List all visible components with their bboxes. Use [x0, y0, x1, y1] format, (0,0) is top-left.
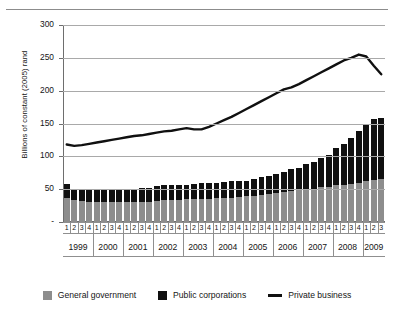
y-axis-tick-label: 50 — [28, 184, 54, 192]
x-axis-quarter-label: 4 — [145, 222, 152, 233]
x-axis-quarter-label: 4 — [325, 222, 332, 233]
x-axis-year-label: 2000 — [93, 242, 123, 252]
x-axis-quarter-label: 2 — [160, 222, 167, 233]
year-separator — [153, 222, 154, 256]
x-axis-band-mid-rule — [63, 233, 385, 234]
y-axis-tick-label: 200 — [28, 86, 54, 94]
quarter-separator — [100, 222, 101, 233]
x-axis-quarter-label: 4 — [175, 222, 182, 233]
y-axis-tick — [59, 156, 63, 157]
quarter-separator — [265, 222, 266, 233]
y-axis-tick — [59, 91, 63, 92]
x-axis-quarter-label: 3 — [378, 222, 385, 233]
year-separator — [123, 222, 124, 256]
gridline — [63, 124, 385, 125]
x-axis-band-bottom-rule — [63, 256, 385, 257]
x-axis-year-label: 2001 — [123, 242, 153, 252]
x-axis-quarter-label: 4 — [295, 222, 302, 233]
y-axis-tick-label: 300 — [28, 20, 54, 28]
x-axis-quarter-label: 1 — [153, 222, 160, 233]
x-axis-quarter-label: 1 — [63, 222, 70, 233]
y-axis-tick — [59, 124, 63, 125]
x-axis-quarter-label: 1 — [333, 222, 340, 233]
quarter-separator — [198, 222, 199, 233]
x-axis-quarter-label: 3 — [288, 222, 295, 233]
x-axis-labels: 1234199912342000123420011234200212342003… — [63, 222, 385, 267]
line-path-private-business — [67, 55, 382, 146]
gridline — [63, 58, 385, 59]
year-separator — [243, 222, 244, 256]
quarter-separator — [235, 222, 236, 233]
quarter-separator — [310, 222, 311, 233]
quarter-separator — [205, 222, 206, 233]
y-axis-tick-label: 250 — [28, 53, 54, 61]
quarter-separator — [108, 222, 109, 233]
quarter-separator — [175, 222, 176, 233]
legend-label-private-business: Private business — [288, 290, 351, 300]
x-axis-quarter-label: 2 — [100, 222, 107, 233]
x-axis-year-label: 2007 — [303, 242, 333, 252]
y-axis-tick-label: 150 — [28, 119, 54, 127]
quarter-separator — [340, 222, 341, 233]
x-axis-quarter-label: 4 — [115, 222, 122, 233]
quarter-separator — [280, 222, 281, 233]
quarter-separator — [295, 222, 296, 233]
quarter-separator — [355, 222, 356, 233]
x-axis-quarter-label: 4 — [265, 222, 272, 233]
x-axis-quarter-label: 3 — [78, 222, 85, 233]
year-separator — [273, 222, 274, 256]
x-axis-quarter-label: 1 — [123, 222, 130, 233]
year-separator — [363, 222, 364, 256]
year-separator — [93, 222, 94, 256]
quarter-separator — [115, 222, 116, 233]
gridline — [63, 91, 385, 92]
legend-item-general-government: General government — [43, 290, 136, 300]
x-axis-year-label: 2006 — [273, 242, 303, 252]
quarter-separator — [145, 222, 146, 233]
quarter-separator — [318, 222, 319, 233]
y-axis-tick-label: 100 — [28, 151, 54, 159]
x-axis-quarter-label: 2 — [370, 222, 377, 233]
y-axis-tick — [59, 189, 63, 190]
x-axis-quarter-label: 3 — [168, 222, 175, 233]
quarter-separator — [78, 222, 79, 233]
quarter-separator — [258, 222, 259, 233]
x-axis-quarter-label: 2 — [190, 222, 197, 233]
legend-line-icon-private-business — [268, 294, 282, 297]
x-axis-year-label: 2003 — [183, 242, 213, 252]
x-axis-quarter-label: 3 — [348, 222, 355, 233]
x-axis-year-label: 2002 — [153, 242, 183, 252]
x-axis-quarter-label: 1 — [243, 222, 250, 233]
quarter-separator — [325, 222, 326, 233]
year-separator — [333, 222, 334, 256]
chart-figure: Billions of constant (2005) rand -501001… — [0, 0, 394, 320]
x-axis-quarter-label: 1 — [93, 222, 100, 233]
year-separator — [303, 222, 304, 256]
year-separator — [213, 222, 214, 256]
quarter-separator — [168, 222, 169, 233]
y-axis-tick-label: - — [28, 217, 54, 225]
legend-label-general-government: General government — [58, 290, 136, 300]
legend-label-public-corporations: Public corporations — [173, 290, 246, 300]
x-axis-quarter-label: 2 — [70, 222, 77, 233]
top-divider-rule — [6, 9, 388, 10]
x-axis-quarter-label: 2 — [340, 222, 347, 233]
x-axis-quarter-label: 4 — [235, 222, 242, 233]
quarter-separator — [250, 222, 251, 233]
quarter-separator — [228, 222, 229, 233]
x-axis-quarter-label: 4 — [85, 222, 92, 233]
x-axis-quarter-label: 3 — [318, 222, 325, 233]
gridline — [63, 189, 385, 190]
x-axis-quarter-label: 2 — [280, 222, 287, 233]
legend-item-public-corporations: Public corporations — [158, 290, 246, 300]
quarter-separator — [70, 222, 71, 233]
legend-swatch-icon-general-government — [43, 291, 52, 300]
x-axis-year-label: 2005 — [243, 242, 273, 252]
legend-swatch-icon-public-corporations — [158, 291, 167, 300]
quarter-separator — [348, 222, 349, 233]
chart-legend: General government Public corporations P… — [0, 285, 394, 305]
x-axis-quarter-label: 1 — [303, 222, 310, 233]
gridline — [63, 156, 385, 157]
x-axis-quarter-label: 3 — [258, 222, 265, 233]
x-axis-quarter-label: 2 — [310, 222, 317, 233]
